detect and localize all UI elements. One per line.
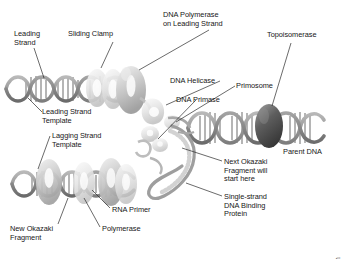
- label-dna-primase: DNA Primase: [176, 96, 220, 105]
- dna-replication-figure: Leading Strand Sliding Clamp DNA Polymer…: [0, 0, 342, 259]
- helicase-body: [142, 99, 164, 125]
- label-new-okazaki-fragment: New Okazaki Fragment: [10, 225, 53, 242]
- label-next-okazaki-fragment: Next Okazaki Fragment will start here: [224, 158, 267, 184]
- primase-body: [141, 126, 168, 152]
- label-primosome: Primosome: [236, 82, 273, 91]
- label-lagging-strand-template: Lagging Strand Template: [52, 132, 101, 149]
- lagging-strand-proteins: [36, 158, 137, 206]
- label-topoisomerase: Topoisomerase: [267, 31, 316, 40]
- label-rna-primer: RNA Primer: [112, 206, 151, 215]
- label-dna-polymerase-on-leading-strand: DNA Polymerase on Leading Strand: [163, 11, 223, 28]
- label-leading-strand-template: Leading Strand Template: [42, 108, 91, 125]
- label-leading-strand: Leading Strand: [14, 30, 40, 47]
- label-single-strand-dna-binding-protein: Single-strand DNA Binding Protein: [224, 193, 267, 219]
- topoisomerase-body: [255, 104, 283, 148]
- label-parent-dna: Parent DNA: [283, 148, 322, 157]
- label-polymerase: Polymerase: [102, 225, 141, 234]
- label-dna-helicase: DNA Helicase: [170, 77, 215, 86]
- label-sliding-clamp: Sliding Clamp: [68, 30, 113, 39]
